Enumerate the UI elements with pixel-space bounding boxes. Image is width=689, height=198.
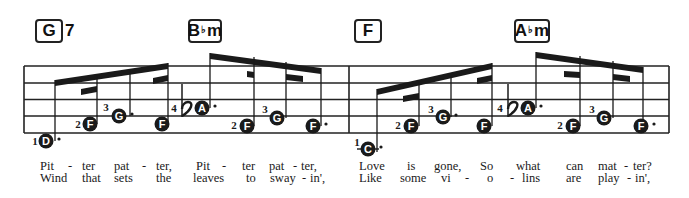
note-f: F — [155, 117, 170, 132]
note-c: C1 — [354, 136, 382, 157]
note-letter: C — [364, 143, 372, 155]
note-f: F2 — [75, 117, 97, 132]
note-letter: G — [439, 111, 448, 123]
finger-number: 2 — [557, 119, 563, 131]
lyric-syllable: that — [82, 172, 101, 184]
flat-icon: ♭ — [201, 24, 206, 35]
lyric-syllable: Like — [359, 172, 382, 184]
finger-number: 1 — [32, 135, 38, 147]
note-g: G3 — [589, 103, 611, 126]
note-letter: A — [524, 102, 532, 114]
finger-number: 3 — [262, 103, 268, 115]
note-letter: F — [159, 118, 166, 130]
flat-icon — [182, 84, 191, 117]
note-letter: F — [570, 120, 577, 132]
lyric-syllable: o — [487, 172, 493, 184]
chord-extension: 7 — [65, 21, 74, 41]
note-f: F2 — [231, 119, 254, 134]
note-letter: F — [310, 120, 317, 132]
flat-icon: ♭ — [528, 24, 533, 35]
lyric-syllable: some — [400, 172, 426, 184]
music-staff: D1F2G3FA4F2G3FC1F2G3FA4F2G3F — [0, 0, 689, 198]
beam — [613, 74, 630, 82]
lyric-hyphen: - — [302, 172, 306, 184]
beam — [81, 86, 97, 95]
note-g: G3 — [103, 101, 133, 124]
note-f: F — [477, 119, 492, 134]
lyric-syllable: play — [598, 172, 620, 184]
flat-icon — [508, 84, 517, 117]
finger-number: 2 — [395, 119, 401, 131]
note-f: F2 — [557, 119, 580, 134]
chord-symbol: A♭m — [514, 19, 550, 43]
finger-number: 2 — [231, 119, 237, 131]
lyric-hyphen: - — [510, 172, 514, 184]
beam — [403, 93, 419, 102]
note-letter: F — [408, 120, 415, 132]
lyric-syllable: in', — [310, 172, 325, 184]
note-g: G3 — [428, 103, 457, 125]
note-letter: F — [638, 120, 645, 132]
lyric-syllable: the — [156, 172, 171, 184]
dot — [130, 112, 133, 115]
lyric-hyphen: - — [627, 172, 631, 184]
chord-root: G — [42, 21, 55, 41]
finger-number: 3 — [589, 103, 595, 115]
chord-root: F — [363, 21, 373, 41]
note-letter: D — [42, 135, 50, 147]
finger-number: 3 — [428, 103, 434, 115]
finger-number: 4 — [171, 102, 177, 114]
dot — [57, 137, 60, 140]
chord-symbol: F — [354, 19, 382, 43]
note-d: D1 — [32, 134, 60, 149]
lyric-hyphen: - — [68, 160, 72, 172]
note-heads: D1F2G3FA4F2G3FC1F2G3FA4F2G3F — [32, 101, 655, 157]
lyric-syllable: lins — [522, 172, 540, 184]
lyric-syllable: sway — [270, 172, 296, 184]
lyric-syllable: leaves — [193, 172, 224, 184]
lyric-syllable: sets — [114, 172, 133, 184]
lyric-hyphen: - — [465, 172, 469, 184]
beam — [247, 71, 254, 78]
note-letter: F — [87, 118, 94, 130]
dot — [379, 145, 382, 148]
beam — [564, 71, 580, 78]
finger-number: 1 — [354, 136, 360, 148]
note-f: F — [306, 119, 328, 134]
beam — [286, 74, 303, 82]
note-letter: G — [600, 112, 609, 124]
beam — [210, 53, 321, 74]
beam — [377, 63, 492, 95]
chord-symbol: B♭m — [188, 19, 222, 43]
lyric-syllable: in', — [635, 172, 650, 184]
lyric-syllable: to — [246, 172, 256, 184]
lyric-syllable: are — [566, 172, 581, 184]
beam — [536, 52, 643, 73]
chord-quality: m — [534, 21, 549, 41]
finger-number: 2 — [75, 118, 81, 130]
note-f: F — [634, 119, 656, 134]
note-g: G3 — [262, 103, 284, 126]
finger-number: 3 — [103, 101, 109, 113]
dot — [539, 104, 542, 107]
lyric-syllable: vi — [441, 172, 451, 184]
chord-symbol: G — [35, 19, 63, 43]
note-letter: G — [273, 112, 282, 124]
chord-root: A — [515, 21, 527, 41]
dot — [652, 122, 655, 125]
dot — [454, 113, 457, 116]
note-letter: A — [198, 102, 206, 114]
chord-root: B — [188, 21, 200, 41]
note-letter: G — [115, 110, 124, 122]
note-letter: F — [244, 120, 251, 132]
chord-quality: m — [207, 21, 222, 41]
lyric-hyphen: - — [142, 160, 146, 172]
lyric-syllable: Wind — [40, 172, 67, 184]
finger-number: 4 — [497, 102, 503, 114]
dot — [213, 104, 216, 107]
dot — [324, 122, 327, 125]
note-letter: F — [481, 120, 488, 132]
note-f: F2 — [395, 119, 418, 134]
